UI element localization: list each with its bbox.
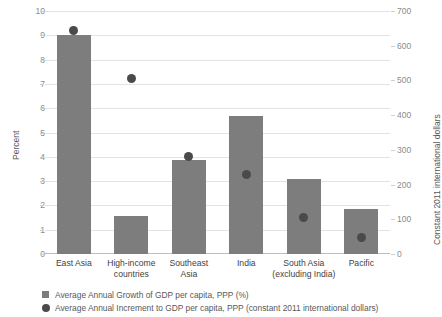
right-tick-mark: [391, 150, 395, 151]
data-point: [127, 74, 136, 83]
gridline: [45, 84, 390, 85]
right-tick-mark: [391, 219, 395, 220]
gridline: [45, 133, 390, 134]
right-tick-label: 400: [397, 111, 411, 120]
bar: [344, 209, 378, 254]
right-tick-label: 600: [397, 42, 411, 51]
category-label: Pacific: [323, 258, 399, 269]
right-tick-mark: [391, 185, 395, 186]
legend-label-increment: Average Annual Increment to GDP per capi…: [55, 303, 378, 313]
gridline: [45, 205, 390, 206]
legend-item-increment: Average Annual Increment to GDP per capi…: [42, 301, 378, 314]
gridline: [45, 181, 390, 182]
left-tick-mark: [40, 35, 44, 36]
left-tick-mark: [40, 60, 44, 61]
legend-label-growth: Average Annual Growth of GDP per capita,…: [55, 290, 249, 300]
gridline: [45, 11, 390, 12]
right-tick-mark: [391, 46, 395, 47]
left-tick-mark: [40, 11, 44, 12]
gridline: [45, 108, 390, 109]
right-tick-label: 200: [397, 181, 411, 190]
right-tick-label: 300: [397, 146, 411, 155]
legend-circle-icon: [42, 304, 50, 312]
gridline: [45, 35, 390, 36]
right-tick-label: 700: [397, 7, 411, 16]
bar: [172, 160, 206, 254]
category-label-line: Asia: [151, 269, 227, 280]
right-tick-mark: [391, 115, 395, 116]
gridline: [45, 157, 390, 158]
gridline: [45, 60, 390, 61]
left-axis-title: Percent: [11, 131, 21, 160]
left-tick-mark: [40, 133, 44, 134]
legend-item-growth: Average Annual Growth of GDP per capita,…: [42, 288, 378, 301]
left-tick-mark: [40, 84, 44, 85]
left-tick-mark: [40, 205, 44, 206]
legend-square-icon: [42, 291, 49, 298]
data-point: [357, 233, 366, 242]
right-tick-mark: [391, 11, 395, 12]
bar: [57, 35, 91, 254]
category-label-line: Pacific: [323, 258, 399, 269]
right-tick-mark: [391, 80, 395, 81]
x-axis-line: [45, 253, 390, 254]
gridline: [45, 230, 390, 231]
category-label-line: (excluding India): [266, 269, 342, 280]
bar: [229, 116, 263, 255]
left-tick-mark: [40, 254, 44, 255]
right-tick-mark: [391, 254, 395, 255]
data-point: [69, 26, 78, 35]
bar: [114, 216, 148, 254]
right-tick-label: 100: [397, 215, 411, 224]
left-tick-mark: [40, 108, 44, 109]
right-axis-title: Constant 2011 international dollars: [432, 114, 442, 245]
left-tick-mark: [40, 157, 44, 158]
left-tick-mark: [40, 181, 44, 182]
right-tick-label: 500: [397, 76, 411, 85]
chart-legend: Average Annual Growth of GDP per capita,…: [42, 288, 378, 314]
x-axis-category-labels: East AsiaHigh-incomecountriesSoutheastAs…: [45, 258, 390, 286]
left-tick-mark: [40, 230, 44, 231]
plot-area: [45, 11, 390, 254]
